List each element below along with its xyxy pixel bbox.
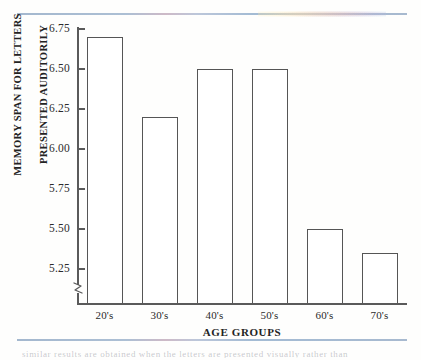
x-axis-tick-label: 70's [350, 309, 410, 321]
bar [197, 69, 233, 303]
bottom-divider-rule [17, 339, 407, 341]
bar [307, 229, 343, 303]
x-axis-tick-label: 40's [185, 309, 245, 321]
x-axis-tick-label: 60's [295, 309, 355, 321]
y-axis-tick-label: 5.25 [24, 263, 70, 275]
y-axis-title: MEMORY SPAN FOR LETTERS PRESENTED AUDITO… [0, 0, 63, 195]
figure-root: 6.756.506.256.005.755.505.25 20's30's40'… [0, 0, 421, 360]
y-axis-tick-label: 5.50 [24, 223, 70, 235]
bar [142, 117, 178, 303]
y-axis-title-line2: PRESENTED AUDITORILY [37, 0, 50, 195]
x-axis-tick-label: 50's [240, 309, 300, 321]
x-axis-tick-label: 30's [130, 309, 190, 321]
x-axis-title: AGE GROUPS [77, 326, 407, 338]
caption-remnant-text: similar results are obtained when the le… [22, 349, 407, 358]
bar [362, 253, 398, 303]
bar-series [77, 0, 407, 304]
bar-chart-plot: 6.756.506.256.005.755.505.25 20's30's40'… [0, 0, 421, 360]
bar [87, 37, 123, 303]
bar [252, 69, 288, 303]
y-axis-title-line1: MEMORY SPAN FOR LETTERS [11, 0, 24, 195]
x-axis-tick-label: 20's [75, 309, 135, 321]
